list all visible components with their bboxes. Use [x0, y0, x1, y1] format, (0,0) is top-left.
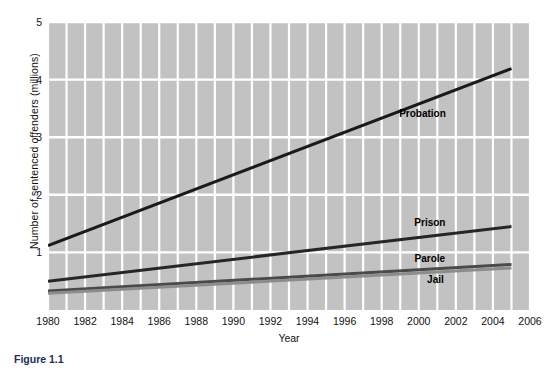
- x-tick-label: 1992: [259, 315, 282, 327]
- x-tick-label: 1988: [185, 315, 208, 327]
- x-tick-label: 1990: [222, 315, 245, 327]
- x-axis-title: Year: [48, 332, 530, 344]
- y-tick-label: 3: [36, 131, 42, 143]
- x-tick-label: 2002: [444, 315, 467, 327]
- x-tick-label: 2006: [518, 315, 541, 327]
- x-tick-label: 1986: [148, 315, 171, 327]
- y-tick-label: 1: [36, 246, 42, 258]
- y-tick-label: 2: [36, 189, 42, 201]
- x-tick-label: 1996: [333, 315, 356, 327]
- y-tick-label: 5: [36, 16, 42, 28]
- x-tick-label: 1982: [73, 315, 96, 327]
- x-tick-label: 1980: [36, 315, 59, 327]
- x-tick-label: 2000: [407, 315, 430, 327]
- y-tick-label: 4: [36, 74, 42, 86]
- x-tick-label: 2004: [481, 315, 504, 327]
- series-label-prison: Prison: [414, 217, 445, 228]
- y-axis-title: Number of sentenced offenders (millions): [28, 21, 40, 281]
- series-label-probation: Probation: [399, 108, 446, 119]
- series-label-jail: Jail: [427, 274, 444, 285]
- figure-caption: Figure 1.1: [14, 353, 64, 369]
- figure-container: Number of sentenced offenders (millions)…: [0, 0, 550, 370]
- x-tick-label: 1984: [110, 315, 133, 327]
- x-tick-label: 1994: [296, 315, 319, 327]
- x-tick-label: 1998: [370, 315, 393, 327]
- series-label-parole: Parole: [415, 253, 446, 264]
- plot-area: 12345 1980198219841986198819901992199419…: [48, 22, 530, 310]
- series-lines: [48, 22, 530, 310]
